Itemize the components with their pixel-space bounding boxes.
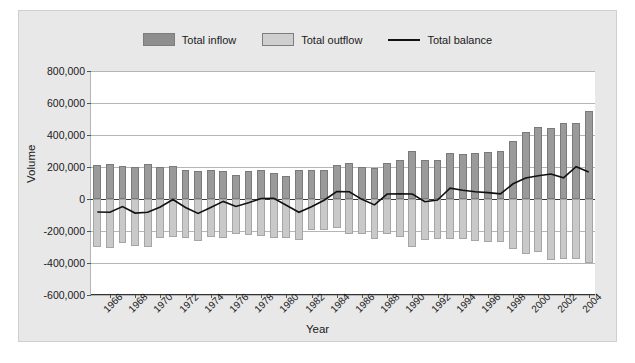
y-tick-label: 600,000 <box>47 97 85 109</box>
plot-area: 800,000600,000400,000200,0000-200,000-40… <box>91 71 595 295</box>
legend-swatch-total-inflow <box>143 33 175 46</box>
y-axis-title: Volume <box>25 145 37 183</box>
y-tick-label: -600,000 <box>44 289 85 301</box>
y-tick-label: 400,000 <box>47 129 85 141</box>
legend-swatch-total-balance <box>388 33 420 46</box>
chart-legend: Total inflow Total outflow Total balance <box>19 33 616 46</box>
chart-figure: Total inflow Total outflow Total balance… <box>18 10 617 342</box>
y-tick-mark <box>87 295 91 296</box>
legend-item-total-outflow: Total outflow <box>262 33 362 46</box>
legend-label-total-inflow: Total inflow <box>182 34 236 46</box>
balance-line-layer <box>91 71 595 295</box>
legend-swatch-total-outflow <box>262 33 294 46</box>
legend-item-total-inflow: Total inflow <box>143 33 236 46</box>
y-tick-label: 200,000 <box>47 161 85 173</box>
x-axis-title: Year <box>19 323 616 335</box>
legend-item-total-balance: Total balance <box>388 33 492 46</box>
legend-label-total-balance: Total balance <box>427 34 492 46</box>
legend-label-total-outflow: Total outflow <box>301 34 362 46</box>
y-tick-label: -400,000 <box>44 257 85 269</box>
y-tick-label: 0 <box>79 193 85 205</box>
y-tick-label: -200,000 <box>44 225 85 237</box>
y-tick-label: 800,000 <box>47 65 85 77</box>
balance-line <box>97 167 588 214</box>
